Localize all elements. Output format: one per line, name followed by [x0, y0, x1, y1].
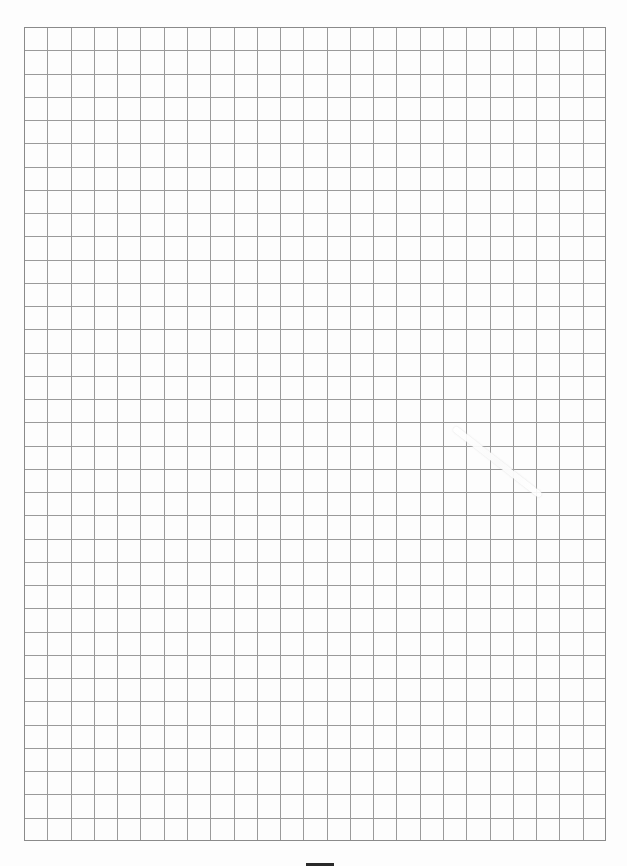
grid-vertical-line — [280, 28, 281, 840]
grid-horizontal-line — [25, 539, 605, 540]
grid-horizontal-line — [25, 794, 605, 795]
grid-vertical-line — [94, 28, 95, 840]
grid-horizontal-line — [25, 446, 605, 447]
grid-horizontal-line — [25, 748, 605, 749]
grid-horizontal-line — [25, 329, 605, 330]
grid-horizontal-line — [25, 306, 605, 307]
grid-horizontal-line — [25, 190, 605, 191]
grid-vertical-line — [559, 28, 560, 840]
grid-horizontal-line — [25, 678, 605, 679]
grid-horizontal-line — [25, 655, 605, 656]
grid-horizontal-line — [25, 701, 605, 702]
grid-vertical-line — [257, 28, 258, 840]
grid-horizontal-line — [25, 236, 605, 237]
grid-horizontal-line — [25, 608, 605, 609]
grid-horizontal-line — [25, 818, 605, 819]
grid-vertical-line — [536, 28, 537, 840]
grid-vertical-line — [117, 28, 118, 840]
grid-horizontal-line — [25, 585, 605, 586]
grid-horizontal-line — [25, 97, 605, 98]
grid-horizontal-line — [25, 143, 605, 144]
grid-vertical-line — [71, 28, 72, 840]
grid-vertical-line — [303, 28, 304, 840]
grid-horizontal-line — [25, 283, 605, 284]
grid-horizontal-line — [25, 50, 605, 51]
grid-vertical-line — [187, 28, 188, 840]
grid-horizontal-line — [25, 422, 605, 423]
grid-horizontal-line — [25, 260, 605, 261]
grid-vertical-line — [396, 28, 397, 840]
grid-horizontal-line — [25, 167, 605, 168]
grid-vertical-line — [164, 28, 165, 840]
grid-vertical-line — [513, 28, 514, 840]
grid-vertical-line — [420, 28, 421, 840]
grid-vertical-line — [47, 28, 48, 840]
grid-horizontal-line — [25, 562, 605, 563]
grid-horizontal-line — [25, 492, 605, 493]
grid-paper-sheet — [0, 0, 627, 866]
grid-horizontal-line — [25, 376, 605, 377]
grid-horizontal-line — [25, 213, 605, 214]
grid-horizontal-line — [25, 515, 605, 516]
grid-horizontal-line — [25, 725, 605, 726]
grid-vertical-line — [443, 28, 444, 840]
grid-vertical-line — [373, 28, 374, 840]
grid-vertical-line — [234, 28, 235, 840]
grid-horizontal-line — [25, 469, 605, 470]
grid-horizontal-line — [25, 74, 605, 75]
grid-horizontal-line — [25, 120, 605, 121]
grid-vertical-line — [350, 28, 351, 840]
grid-vertical-line — [140, 28, 141, 840]
grid-vertical-line — [490, 28, 491, 840]
grid — [24, 27, 606, 841]
grid-horizontal-line — [25, 771, 605, 772]
grid-horizontal-line — [25, 632, 605, 633]
grid-vertical-line — [583, 28, 584, 840]
grid-horizontal-line — [25, 399, 605, 400]
grid-vertical-line — [210, 28, 211, 840]
grid-horizontal-line — [25, 353, 605, 354]
grid-vertical-line — [327, 28, 328, 840]
